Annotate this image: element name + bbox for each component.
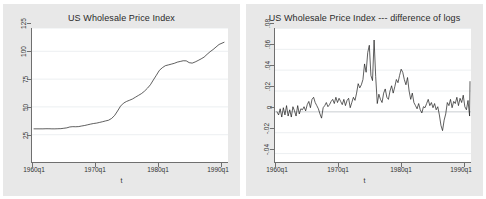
y-tick-label-left-3: 100 <box>3 48 29 55</box>
x-axis-title-left: t <box>3 177 240 184</box>
y-tick-label-right-1: .06 <box>246 41 272 48</box>
plot-area-left <box>31 28 228 163</box>
y-tick-label-right-4: 0 <box>246 104 272 111</box>
chart-title-right: US Wholesale Price Index --- difference … <box>246 13 483 23</box>
y-tick-label-right-5: -.02 <box>246 125 272 132</box>
x-tick-label-right-3: 1990q1 <box>450 166 472 173</box>
plot-area-right <box>274 28 471 163</box>
x-axis-title-right: t <box>246 177 483 184</box>
x-tick-label-left-3: 1990q1 <box>207 166 229 173</box>
x-tick-label-right-0: 1960q1 <box>266 166 288 173</box>
y-tick-label-left-0: 25 <box>3 132 29 139</box>
series-line-wpi-dlog <box>277 40 470 131</box>
plot-svg-left <box>32 28 228 162</box>
x-tick-label-right-1: 1970q1 <box>327 166 349 173</box>
figure-container: US Wholesale Price Index 25 50 75 100 12… <box>0 0 486 199</box>
plot-svg-right <box>275 28 471 162</box>
y-tick-label-left-4: 125 <box>3 20 29 27</box>
x-tick-label-left-2: 1980q1 <box>147 166 169 173</box>
y-tick-label-right-6: -.04 <box>246 146 272 153</box>
x-tick-label-left-1: 1970q1 <box>84 166 106 173</box>
chart-panel-wpi-level: US Wholesale Price Index 25 50 75 100 12… <box>3 4 240 196</box>
chart-title-left: US Wholesale Price Index <box>3 13 240 23</box>
y-tick-label-right-0: .08 <box>246 20 272 27</box>
y-tick-label-left-1: 50 <box>3 104 29 111</box>
x-tick-label-left-0: 1960q1 <box>23 166 45 173</box>
y-tick-label-left-2: 75 <box>3 76 29 83</box>
y-tick-label-right-3: .02 <box>246 83 272 90</box>
y-tick-mark-right-0 <box>270 23 274 24</box>
y-tick-label-right-2: .04 <box>246 62 272 69</box>
chart-panel-wpi-dlog: US Wholesale Price Index --- difference … <box>246 4 483 196</box>
series-line-wpi-level <box>34 42 224 129</box>
y-tick-mark-left-4 <box>27 23 31 24</box>
x-tick-label-right-2: 1980q1 <box>390 166 412 173</box>
